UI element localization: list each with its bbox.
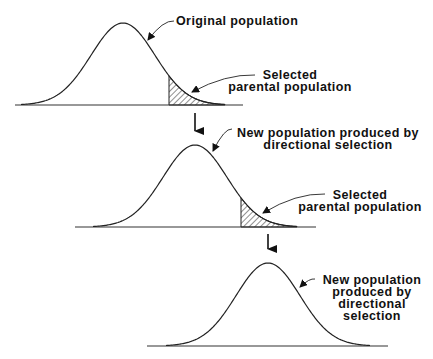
panel-generation-2: New population produced bydirectional se… bbox=[75, 126, 422, 227]
new-population-label-1: New population produced bydirectional se… bbox=[237, 126, 419, 152]
directional-selection-diagram: Original populationSelectedparental popu… bbox=[0, 0, 433, 359]
distribution-curve bbox=[93, 145, 297, 226]
selected-region-hatch bbox=[169, 76, 225, 105]
selected-label-2: Selectedparental population bbox=[298, 188, 422, 214]
distribution-panels: Original populationSelectedparental popu… bbox=[15, 14, 422, 346]
label-line: parental population bbox=[298, 200, 422, 214]
label-line: directional selection bbox=[263, 138, 392, 152]
leader-arrow-icon bbox=[300, 279, 315, 287]
selected-label-1: Selectedparental population bbox=[228, 68, 352, 94]
label-line: selection bbox=[343, 309, 401, 323]
selected-region-hatch bbox=[241, 198, 297, 227]
distribution-curve bbox=[21, 23, 225, 104]
new-population-label-2: New populationproduced bydirectionalsele… bbox=[323, 273, 422, 323]
panel-original: Original populationSelectedparental popu… bbox=[15, 14, 352, 105]
panel-generation-3: New populationproduced bydirectionalsele… bbox=[147, 263, 421, 346]
label-line: Original population bbox=[176, 14, 298, 28]
original-label: Original population bbox=[176, 14, 298, 28]
leader-arrow-icon bbox=[148, 21, 174, 40]
leader-arrow-icon bbox=[213, 129, 232, 151]
label-line: parental population bbox=[228, 80, 352, 94]
